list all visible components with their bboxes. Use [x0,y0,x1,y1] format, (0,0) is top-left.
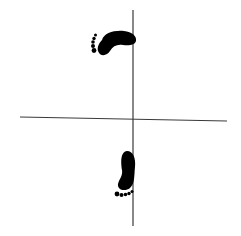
diagram-canvas: Footprint orientation diagram [0,0,241,236]
footprint-top-icon [91,31,136,55]
horizontal-axis-line [20,117,227,121]
footprint-bottom-icon [115,151,136,197]
